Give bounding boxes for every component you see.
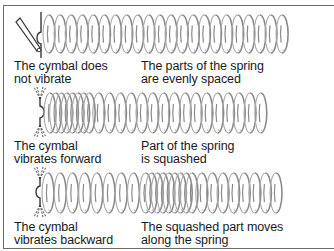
spring-coil: [276, 15, 288, 53]
spring-coil: [132, 15, 144, 53]
spring-coil: [66, 173, 78, 213]
caption-cymbal-state: The cymbal vibrates forward: [14, 140, 101, 166]
caption-cymbal-state: The cymbal vibrates backward: [14, 221, 113, 247]
spring-coil: [198, 15, 210, 53]
spring-coil: [143, 15, 155, 53]
spring-coil: [103, 173, 115, 213]
spring-coil: [99, 15, 111, 53]
spring-coil: [110, 15, 122, 53]
spring-coil: [76, 15, 88, 53]
panel-backward: The cymbal vibrates backward The squashe…: [0, 165, 322, 251]
spring-coil: [165, 15, 177, 53]
spring-coil: [243, 15, 255, 53]
caption-spring-state: The squashed part moves along the spring: [141, 221, 283, 247]
spring-squashed-illustration: [0, 85, 322, 145]
spring-coil: [221, 15, 233, 53]
spring-coil: [42, 173, 54, 213]
spring-coil: [65, 15, 77, 53]
spring-coil: [187, 15, 199, 53]
spring-coil: [176, 15, 188, 53]
cymbal: [40, 97, 44, 127]
spring-coil: [79, 173, 91, 213]
spring-coil: [87, 15, 99, 53]
cymbal: [36, 177, 40, 207]
spring-coil: [154, 15, 166, 53]
spring-coil: [115, 173, 127, 213]
spring-coil: [210, 15, 222, 53]
spring-wave-moving-illustration: [0, 165, 322, 225]
spring-coil: [254, 15, 266, 53]
spring-coil: [54, 173, 66, 213]
spring-coil: [54, 15, 66, 53]
panel-rest: The cymbal does not vibrate The parts of…: [0, 0, 322, 85]
spring-coil: [43, 15, 55, 53]
spring-coil: [91, 173, 103, 213]
spring-coil: [127, 173, 139, 213]
spring-coil: [121, 15, 133, 53]
caption-spring-state: Part of the spring is squashed: [141, 140, 234, 166]
caption-spring-state: The parts of the spring are evenly space…: [141, 60, 264, 86]
spring-coil: [232, 15, 244, 53]
spring-evenly-spaced-illustration: [0, 0, 322, 62]
spring-coil: [265, 15, 277, 53]
panel-forward: The cymbal vibrates forward Part of the …: [0, 85, 322, 165]
caption-cymbal-state: The cymbal does not vibrate: [14, 60, 108, 86]
